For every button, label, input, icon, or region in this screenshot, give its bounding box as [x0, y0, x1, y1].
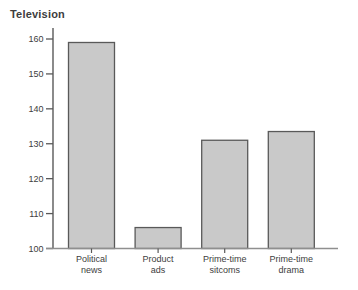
y-tick-label-120: 120: [28, 174, 43, 184]
category-label-prime-time-drama-line1: Prime-time: [270, 254, 314, 264]
y-tick-label-140: 140: [28, 104, 43, 114]
category-label-prime-time-sitcoms-line1: Prime-time: [203, 254, 247, 264]
category-label-prime-time-sitcoms-line2: sitcoms: [209, 265, 240, 275]
bar-political-news: [69, 42, 115, 248]
category-label-political-news-line1: Political: [76, 254, 107, 264]
bar-product-ads: [135, 228, 181, 249]
category-label-political-news-line2: news: [81, 265, 103, 275]
bar-chart: 100110120130140150160PoliticalnewsProduc…: [0, 0, 358, 290]
bar-prime-time-sitcoms: [202, 140, 248, 248]
y-tick-label-100: 100: [28, 244, 43, 254]
y-tick-label-160: 160: [28, 34, 43, 44]
category-label-product-ads-line2: ads: [151, 265, 166, 275]
category-label-product-ads-line1: Product: [143, 254, 175, 264]
y-tick-label-150: 150: [28, 69, 43, 79]
y-tick-label-110: 110: [29, 209, 43, 219]
category-label-prime-time-drama-line2: drama: [279, 265, 305, 275]
bar-prime-time-drama: [268, 132, 314, 249]
y-tick-label-130: 130: [28, 139, 43, 149]
chart-canvas: Television 100110120130140150160Politica…: [0, 0, 358, 290]
